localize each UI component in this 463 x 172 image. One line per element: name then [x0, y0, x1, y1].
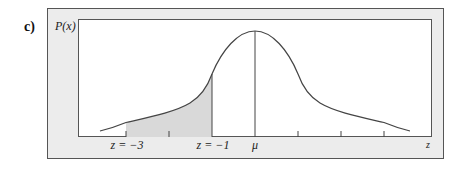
tick-label-z-minus-3: z = −3 [110, 138, 144, 152]
tick-label-z-minus-1: z = −1 [196, 138, 230, 152]
tick-label-mu: μ [251, 138, 258, 152]
x-axis-label: z [425, 139, 430, 150]
normal-distribution-figure: P(x) z z = −3 z = −1 μ [0, 0, 463, 172]
y-axis-label: P(x) [54, 19, 76, 33]
